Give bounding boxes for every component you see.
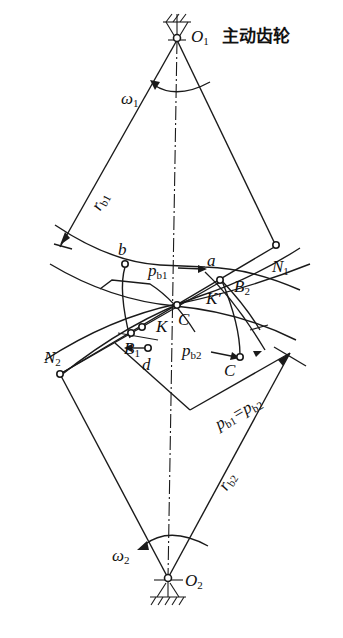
point-K (139, 324, 145, 330)
fixed-support-bottom (150, 580, 186, 605)
label-C: C (178, 311, 189, 328)
point-B1 (128, 330, 134, 336)
point-O1 (174, 35, 181, 42)
label-omega2: ω2 (112, 547, 130, 566)
label-omega1: ω1 (121, 90, 139, 109)
label-pb2: pb2 (182, 342, 202, 361)
point-C-prime (237, 354, 243, 360)
label-B2: B2 (234, 278, 250, 297)
label-pb1: pb1 (148, 262, 168, 281)
point-O2 (165, 575, 172, 582)
label-C-prime: C (224, 362, 235, 379)
label-d: d (142, 356, 151, 373)
driving-gear-title: 主动齿轮 (222, 28, 290, 45)
point-C (174, 302, 180, 308)
label-N1: N1 (272, 258, 289, 277)
label-K-prime: K′ (206, 290, 221, 307)
label-a: a (207, 252, 216, 269)
point-B2 (217, 277, 223, 283)
label-O1: O1 (191, 28, 209, 47)
point-N2 (57, 371, 63, 377)
point-d (145, 345, 151, 351)
label-O2: O2 (185, 572, 203, 591)
gear-mesh-diagram (0, 0, 343, 638)
point-N1 (273, 242, 279, 248)
point-b (122, 261, 128, 267)
label-K: K (156, 318, 167, 335)
label-b: b (118, 241, 127, 258)
label-B1: B1 (124, 340, 140, 359)
label-N2: N2 (44, 349, 61, 368)
